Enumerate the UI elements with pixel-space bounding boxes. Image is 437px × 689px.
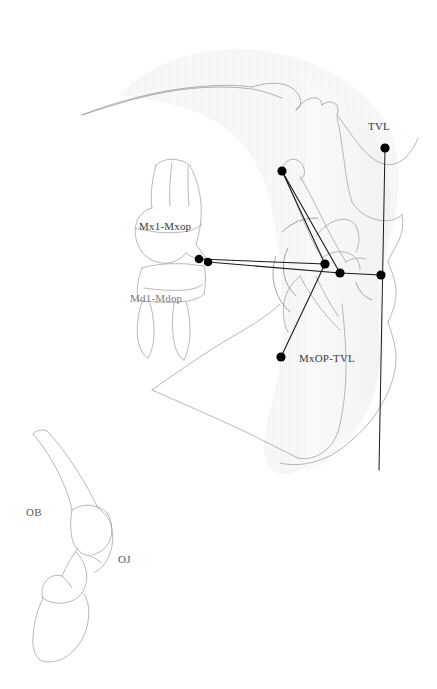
landmark-condyle-superior (277, 166, 286, 175)
label-ob: OB (26, 506, 42, 518)
label-md1-mdop: Md1-Mdop (130, 292, 182, 304)
maxillary-molar-outline (135, 159, 206, 263)
landmark-tvl-occlusal-intersect (376, 270, 385, 279)
landmark-md1-incisal-edge (204, 258, 213, 267)
cephalometric-figure: TVL Mx1-Mxop Md1-Mdop MxOP-TVL OB OJ (0, 0, 437, 689)
tracing-canvas (0, 0, 437, 689)
landmark-gonion-inferior (276, 352, 285, 361)
landmark-mxop-posterior (320, 259, 329, 268)
incisor-overbite-outline (33, 430, 113, 662)
label-tvl: TVL (368, 120, 390, 132)
landmark-mx1-incisal-edge (195, 255, 204, 264)
label-oj: OJ (118, 553, 131, 565)
mandibular-molar-outline (137, 264, 205, 360)
label-mxop-tvl: MxOP-TVL (299, 352, 355, 364)
landmark-mdop-posterior (335, 268, 344, 277)
label-mx1-mxop: Mx1-Mxop (139, 220, 191, 232)
landmark-tvl-superior (380, 143, 389, 152)
